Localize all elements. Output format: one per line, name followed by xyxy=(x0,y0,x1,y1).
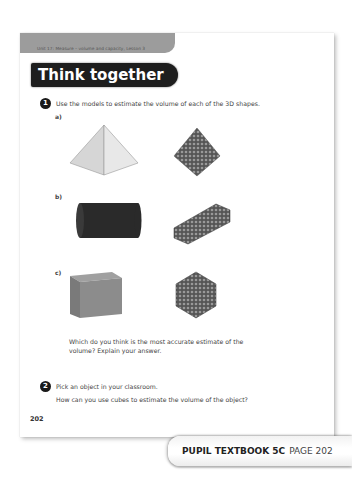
textbook-page-ref: PAGE 202 xyxy=(289,446,333,456)
cube-cylinder-model-icon xyxy=(170,200,234,246)
cube-block-model-icon xyxy=(174,270,218,320)
followup-question-line1: Which do you think is the most accurate … xyxy=(69,338,243,345)
cylinder-icon xyxy=(76,201,142,241)
cube-icon xyxy=(68,270,124,320)
unit-label: Unit 17: Measure – volume and capacity, … xyxy=(37,46,145,51)
section-title: Think together xyxy=(31,63,178,87)
cube-pyramid-model-icon xyxy=(172,126,222,178)
followup-question-line2: volume? Explain your answer. xyxy=(69,347,161,354)
part-b-label: b) xyxy=(55,193,62,200)
question-2-text: Pick an object in your classroom. xyxy=(56,383,158,390)
textbook-name: PUPIL TEXTBOOK 5C xyxy=(182,446,285,456)
footer-page-tab: PUPIL TEXTBOOK 5CPAGE 202 xyxy=(168,436,352,466)
part-a-label: a) xyxy=(55,113,62,120)
page-number: 202 xyxy=(30,415,44,423)
question-1-badge: 1 xyxy=(40,98,51,109)
question-2-badge: 2 xyxy=(40,381,51,392)
question-1-text: Use the models to estimate the volume of… xyxy=(56,100,260,107)
part-c-label: c) xyxy=(55,269,61,276)
textbook-page: Unit 17: Measure – volume and capacity, … xyxy=(20,33,334,437)
square-pyramid-icon xyxy=(68,123,140,177)
question-2-subtext: How can you use cubes to estimate the vo… xyxy=(56,396,248,403)
